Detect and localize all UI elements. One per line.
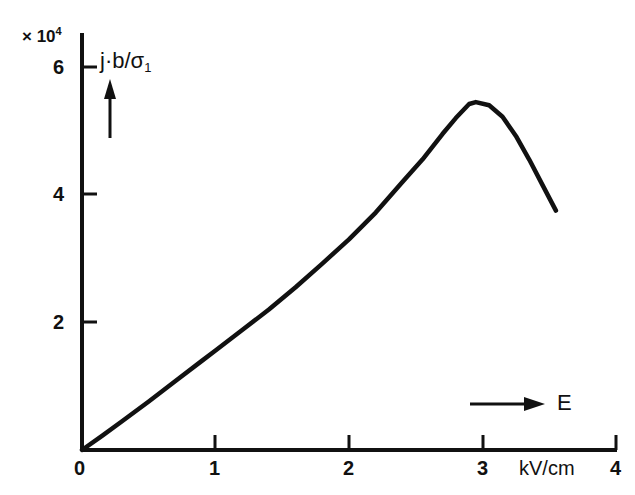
x-axis-unit: kV/cm [519, 458, 575, 478]
y-axis-multiplier: × 104 [22, 26, 62, 45]
y-tick-label-2: 2 [28, 312, 64, 332]
figure-canvas: × 104 6 4 2 j·b/σ1 E 0 1 2 3 4 kV/cm [0, 0, 635, 495]
up-arrow-icon [104, 79, 116, 138]
y-tick-label-4: 4 [28, 184, 64, 204]
x-tick-label-3: 3 [477, 458, 488, 478]
chart-plot-area [0, 0, 635, 495]
y-tick-label-6: 6 [28, 57, 64, 77]
x-tick-label-0: 0 [74, 458, 85, 478]
y-axis-title: j·b/σ1 [100, 50, 151, 72]
x-tick-label-1: 1 [209, 458, 220, 478]
x-tick-label-2: 2 [343, 458, 354, 478]
data-curve [82, 102, 556, 450]
x-axis-symbol: E [557, 392, 572, 414]
x-tick-label-4: 4 [610, 458, 621, 478]
right-arrow-icon [470, 397, 545, 411]
